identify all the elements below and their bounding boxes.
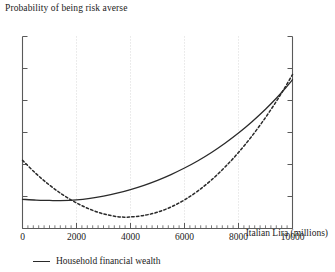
axis-ticks (23, 37, 293, 229)
chart-figure: Probability of being risk averse 0200040… (0, 0, 335, 272)
data-series (23, 75, 293, 218)
x-tick-label: 6000 (175, 232, 194, 242)
legend-line-swatch-solid (33, 261, 50, 262)
gridlines (77, 37, 239, 229)
chart-legend: Household financial wealth (33, 256, 160, 266)
x-tick-label: 4000 (121, 232, 140, 242)
x-axis-title: Italian Lira (millions) (246, 228, 328, 238)
series-line-solid (23, 80, 293, 201)
axis-frame (23, 37, 293, 229)
legend-label: Household financial wealth (56, 256, 160, 266)
x-tick-label: 2000 (67, 232, 86, 242)
x-tick-label: 0 (20, 232, 25, 242)
series-line-dashed (23, 75, 293, 218)
